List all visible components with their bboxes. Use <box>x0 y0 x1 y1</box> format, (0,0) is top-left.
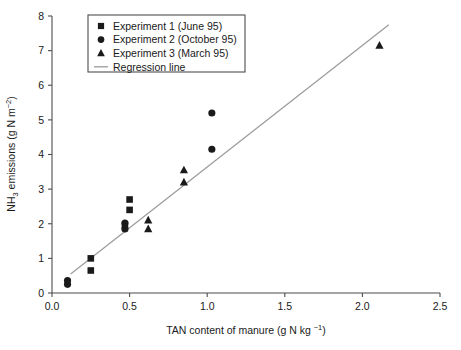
x-title-sup: −1 <box>314 323 323 332</box>
x-tick-label: 2.5 <box>433 300 448 312</box>
data-point-triangle <box>144 216 152 224</box>
x-tick-label: 0.0 <box>45 300 60 312</box>
data-point-square <box>126 196 133 203</box>
data-markers <box>64 41 384 288</box>
y-tick-label: 1 <box>38 252 44 264</box>
x-axis-ticks: 0.00.51.01.52.02.5 <box>45 293 448 312</box>
data-point-triangle <box>144 224 152 232</box>
data-point-triangle <box>180 166 188 174</box>
legend-marker-square <box>98 23 104 29</box>
x-tick-label: 1.5 <box>277 300 292 312</box>
y-tick-label: 4 <box>38 148 44 160</box>
y-tick-label: 2 <box>38 218 44 230</box>
chart-container: 012345678 0.00.51.01.52.02.5 NH3 emissio… <box>0 0 461 350</box>
x-axis-title: TAN content of manure (g N kg −1) <box>166 323 326 336</box>
data-point-circle <box>121 225 128 232</box>
y-axis-title: NH3 emissions (g N m−2) <box>4 96 20 211</box>
y-title-pre: NH <box>5 197 17 212</box>
y-axis-ticks: 012345678 <box>38 10 52 299</box>
legend-label: Experiment 1 (June 95) <box>113 20 222 32</box>
legend-label: Experiment 3 (March 95) <box>113 47 229 59</box>
y-tick-label: 6 <box>38 79 44 91</box>
legend-marker-circle <box>98 36 105 43</box>
data-point-circle <box>208 109 215 116</box>
data-point-circle <box>208 146 215 153</box>
x-tick-label: 1.0 <box>200 300 215 312</box>
data-point-triangle <box>180 178 188 186</box>
y-tick-label: 5 <box>38 114 44 126</box>
legend-label: Regression line <box>113 61 186 73</box>
data-point-square <box>88 267 95 274</box>
x-title-pre: TAN content of manure (g N kg <box>166 324 313 336</box>
x-tick-label: 0.5 <box>122 300 137 312</box>
data-point-square <box>88 255 95 262</box>
y-tick-label: 0 <box>38 287 44 299</box>
y-tick-label: 3 <box>38 183 44 195</box>
y-title-mid: emissions (g N m <box>5 108 17 192</box>
data-point-square <box>126 207 133 214</box>
svg-text:TAN content of manure (g N kg: TAN content of manure (g N kg −1) <box>166 323 326 336</box>
x-title-post: ) <box>322 324 326 336</box>
y-title-post: ) <box>5 96 17 100</box>
svg-text:NH3 emissions (g N m−2): NH3 emissions (g N m−2) <box>4 96 20 211</box>
data-point-triangle <box>375 41 383 49</box>
emissions-scatter-chart: 012345678 0.00.51.01.52.02.5 NH3 emissio… <box>0 0 461 350</box>
y-title-sup: −2 <box>4 100 13 109</box>
y-tick-label: 7 <box>38 44 44 56</box>
x-tick-label: 2.0 <box>355 300 370 312</box>
y-tick-label: 8 <box>38 10 44 22</box>
chart-legend: Experiment 1 (June 95)Experiment 2 (Octo… <box>88 15 245 73</box>
data-point-circle <box>64 281 71 288</box>
legend-label: Experiment 2 (October 95) <box>113 33 237 45</box>
